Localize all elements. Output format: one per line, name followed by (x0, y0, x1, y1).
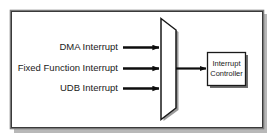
input-label-udb: UDB Interrupt (60, 82, 118, 93)
input-label-dma: DMA Interrupt (59, 41, 118, 52)
interrupt-mux (161, 19, 176, 120)
interrupt-controller-label-line1: Interrupt (213, 59, 242, 68)
diagram-canvas: DMA Interrupt Fixed Function Interrupt U… (0, 0, 275, 139)
input-label-fixed-function: Fixed Function Interrupt (18, 62, 119, 73)
interrupt-controller-label-line2: Controller (210, 69, 243, 78)
